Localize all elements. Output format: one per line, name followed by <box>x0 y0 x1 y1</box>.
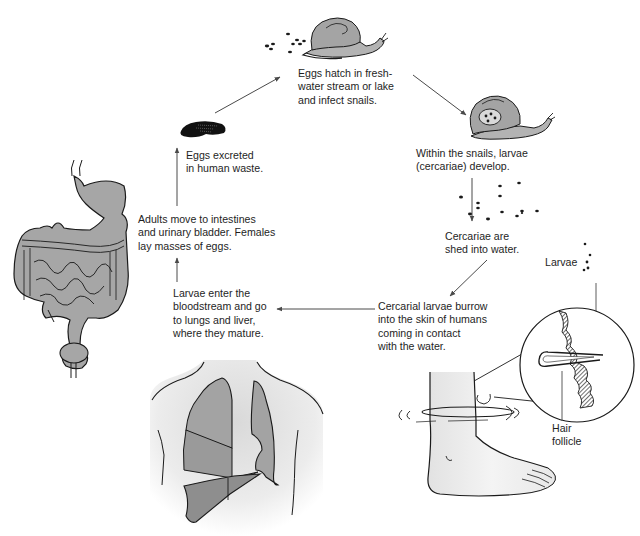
digestive-tract-bladder <box>14 160 128 378</box>
arrow-eggs-to-snail <box>215 77 280 113</box>
cercariae-dots <box>459 182 539 221</box>
label-eggs-hatch: Eggs hatch in fresh- water stream or lak… <box>298 67 394 107</box>
arrow-shed-to-burrow <box>450 260 487 296</box>
label-larvae-callout: Larvae <box>545 256 577 269</box>
infected-snail <box>470 96 555 139</box>
label-cercariae-shed: Cercariae are shed into water. <box>445 230 519 257</box>
egg-mass <box>180 121 225 137</box>
label-eggs-excreted: Eggs excreted in human waste. <box>186 149 263 176</box>
arrow-snail-to-infected-snail <box>413 75 466 115</box>
label-larvae-develop: Within the snails, larvae (cercariae) de… <box>416 147 528 174</box>
larvae-dots <box>583 243 592 272</box>
label-larvae-burrow: Cercarial larvae burrow into the skin of… <box>378 300 488 354</box>
chest-lungs-liver <box>150 360 323 536</box>
label-hair-follicle: Hair follicle <box>552 422 581 449</box>
life-cycle-diagram: Eggs hatch in fresh- water stream or lak… <box>0 0 640 536</box>
snail-with-eggs <box>265 18 388 59</box>
skin-magnified-circle <box>467 308 634 422</box>
label-adults-move: Adults move to intestines and urinary bl… <box>138 213 275 253</box>
label-larvae-bloodstream: Larvae enter the bloodstream and go to l… <box>173 287 267 341</box>
